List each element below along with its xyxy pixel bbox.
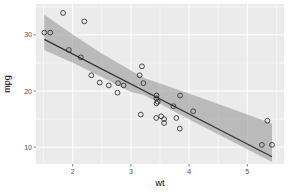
x-axis-title: wt <box>155 178 165 188</box>
y-axis: 102030 <box>24 31 36 150</box>
y-tick-label: 30 <box>24 31 32 38</box>
x-tick-label: 2 <box>71 168 75 175</box>
x-tick-label: 3 <box>129 168 133 175</box>
y-axis-title: mpg <box>2 75 12 93</box>
scatter-plot: 2345 102030 wt mpg <box>0 0 294 196</box>
x-tick-label: 4 <box>187 168 191 175</box>
y-tick-label: 10 <box>24 144 32 151</box>
y-tick-label: 20 <box>24 88 32 95</box>
x-axis: 2345 <box>71 164 250 175</box>
x-tick-label: 5 <box>245 168 249 175</box>
